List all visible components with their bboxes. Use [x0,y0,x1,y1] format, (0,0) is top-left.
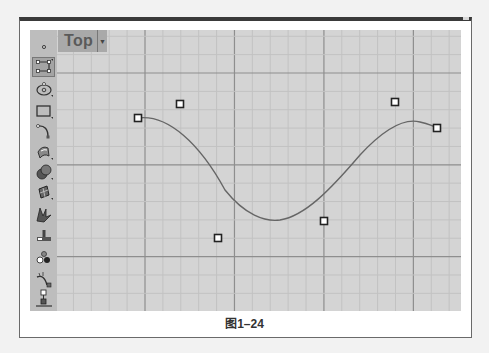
viewport-name: Top [58,32,93,50]
transform-icon [34,205,54,223]
transform-tool-button[interactable] [32,204,55,224]
curve-from-control-points-icon [34,58,54,76]
curve-control-points-tool-button[interactable] [32,57,55,77]
circle-tool-button[interactable] [32,79,55,99]
dimension-tool-button[interactable] [32,226,55,246]
gumball-tool-button[interactable] [32,289,55,309]
surface-tool-button[interactable] [32,142,55,162]
point-tool-button[interactable] [32,37,55,57]
surface-icon [34,143,54,161]
polyline-curve-icon [34,122,54,140]
point-icon [35,39,53,55]
solid-tool-button[interactable] [32,162,55,182]
dimension-icon [34,227,54,245]
chevron-down-icon[interactable]: ▼ [97,30,107,52]
rectangle-icon [34,102,54,120]
curve-analysis-icon [34,271,54,289]
mesh-tool-button[interactable] [32,182,55,202]
circle-icon [34,80,54,98]
curve-analysis-tool-button[interactable] [32,270,55,290]
polyline-curve-tool-button[interactable] [32,121,55,141]
viewport-grid [30,30,461,311]
left-toolbar [30,30,57,311]
solid-spheres-icon [34,163,54,181]
viewport-title-tab[interactable]: Top ▼ [58,30,107,52]
rectangle-tool-button[interactable] [32,101,55,121]
top-viewport[interactable] [30,30,461,311]
frame-corner [463,17,469,20]
group-icon [34,249,54,267]
gumball-icon [34,289,54,309]
group-tool-button[interactable] [32,248,55,268]
figure-caption: 图1–24 [0,314,489,331]
mesh-icon [34,183,54,201]
